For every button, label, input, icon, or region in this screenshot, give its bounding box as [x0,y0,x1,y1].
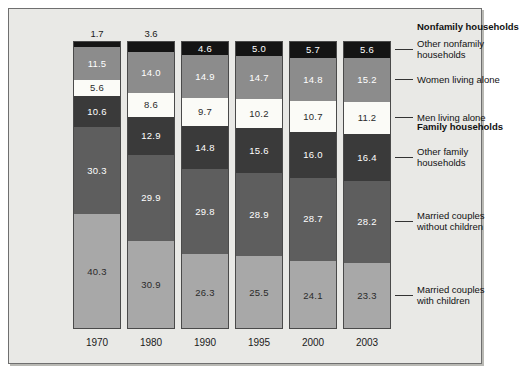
bar-segment[interactable]: 16.4 [344,134,390,181]
x-axis-label-1995: 1995 [235,337,283,348]
stacked-bar-1990[interactable]: 4.614.99.714.829.826.3 [181,41,229,329]
bar-segment[interactable]: 5.0 [236,42,282,56]
bar-segment[interactable]: 15.2 [344,58,390,102]
bar-segment[interactable]: 14.8 [182,126,228,169]
segment-value-label: 14.7 [249,73,268,83]
stacked-bar-2000[interactable]: 5.714.810.716.028.724.1 [289,41,337,329]
legend-item-0[interactable]: Other nonfamilyhouseholds [417,38,484,60]
legend-leader-line [395,79,413,80]
segment-value-label: 4.6 [198,44,212,54]
stacked-bar-plot: 1.711.55.610.630.340.319703.614.08.612.9… [9,9,481,363]
bar-segment[interactable]: 8.6 [128,93,174,118]
legend-label-line1: Married couples [417,284,485,295]
bar-segment[interactable]: 28.7 [290,178,336,261]
segment-value-label: 28.9 [249,210,268,220]
segment-value-label: 24.1 [303,291,322,301]
segment-value-label: 11.2 [358,113,377,123]
bar-segment[interactable]: 28.9 [236,173,282,256]
bar-segment[interactable]: 5.7 [290,42,336,58]
bar-segment[interactable] [128,42,174,52]
bar-segment[interactable]: 10.2 [236,99,282,128]
bar-segment[interactable]: 28.2 [344,181,390,262]
bar-segment[interactable]: 10.7 [290,101,336,132]
segment-value-label: 29.9 [141,193,160,203]
segment-value-label: 28.7 [303,214,322,224]
segment-value-label: 25.5 [249,288,268,298]
x-axis-label-1990: 1990 [181,337,229,348]
legend-item-4[interactable]: Married coupleswithout children [417,210,485,232]
segment-value-label: 3.6 [127,28,175,39]
stacked-bar-2003[interactable]: 5.615.211.216.428.223.3 [343,41,391,329]
bar-segment[interactable]: 29.9 [128,155,174,241]
x-axis-label-2000: 2000 [289,337,337,348]
bar-segment[interactable]: 29.8 [182,169,228,255]
legend-label-line1: Other family [417,146,468,157]
legend-leader-line [395,295,413,296]
legend-leader-line [395,117,413,118]
segment-value-label: 5.6 [90,83,104,93]
legend-label-line1: Married couples [417,210,485,221]
legend-item-3[interactable]: Other familyhouseholds [417,146,468,168]
bar-segment[interactable]: 30.3 [74,127,120,214]
stacked-bar-1980[interactable]: 14.08.612.929.930.9 [127,41,175,329]
segment-value-label: 15.2 [357,75,376,85]
bar-segment[interactable]: 14.9 [182,55,228,98]
segment-value-label: 40.3 [87,267,106,277]
bar-segment[interactable]: 40.3 [74,214,120,329]
bar-segment[interactable]: 26.3 [182,254,228,329]
legend-label-line2: with children [417,295,485,306]
bar-segment[interactable]: 5.6 [74,80,120,96]
segment-value-label: 14.8 [303,75,322,85]
bar-segment[interactable]: 11.5 [74,47,120,80]
bar-segment[interactable]: 25.5 [236,256,282,329]
bar-segment[interactable]: 11.2 [344,102,390,134]
bar-segment[interactable]: 9.7 [182,98,228,126]
legend-item-2[interactable]: Men living alone [417,112,486,123]
segment-value-label: 11.5 [88,59,107,69]
legend-item-1[interactable]: Women living alone [417,74,500,85]
bar-segment[interactable]: 14.0 [128,52,174,92]
segment-value-label: 10.7 [303,112,322,122]
bar-segment[interactable]: 23.3 [344,263,390,329]
x-axis-label-2003: 2003 [343,337,391,348]
segment-value-label: 14.9 [195,72,214,82]
segment-value-label: 5.7 [306,45,320,55]
segment-value-label: 15.6 [249,146,268,156]
segment-value-label: 10.2 [249,109,268,119]
bar-segment[interactable]: 14.7 [236,56,282,98]
segment-value-label: 29.8 [195,207,214,217]
stacked-bar-1970[interactable]: 11.55.610.630.340.3 [73,41,121,329]
legend-label-line1: Women living alone [417,74,500,85]
legend-item-5[interactable]: Married coupleswith children [417,284,485,306]
stacked-bar-1995[interactable]: 5.014.710.215.628.925.5 [235,41,283,329]
bar-segment[interactable]: 10.6 [74,96,120,127]
segment-value-label: 14.8 [195,143,214,153]
bar-segment[interactable]: 12.9 [128,117,174,154]
bar-segment[interactable]: 5.6 [344,42,390,58]
bar-segment[interactable]: 16.0 [290,132,336,178]
legend-label-line2: households [417,157,468,168]
segment-value-label: 1.7 [73,28,121,39]
legend-leader-line [395,157,413,158]
segment-value-label: 23.3 [357,291,376,301]
segment-value-label: 5.6 [360,45,374,55]
legend-label-line2: households [417,49,484,60]
legend-label-line1: Men living alone [417,112,486,123]
segment-value-label: 16.4 [357,153,376,163]
bar-segment[interactable]: 14.8 [290,58,336,101]
segment-value-label: 14.0 [141,68,160,78]
x-axis-label-1980: 1980 [127,337,175,348]
bar-segment[interactable]: 15.6 [236,128,282,173]
legend-label-line1: Other nonfamily [417,38,484,49]
segment-value-label: 12.9 [141,131,160,141]
bar-segment[interactable]: 24.1 [290,261,336,329]
segment-value-label: 16.0 [303,150,322,160]
segment-value-label: 28.2 [357,217,376,227]
bar-segment[interactable]: 4.6 [182,42,228,55]
bar-segment[interactable]: 30.9 [128,241,174,329]
segment-value-label: 26.3 [195,288,214,298]
legend-leader-line [395,49,413,50]
legend-label-line2: without children [417,221,485,232]
segment-value-label: 5.0 [252,44,266,54]
x-axis-label-1970: 1970 [73,337,121,348]
